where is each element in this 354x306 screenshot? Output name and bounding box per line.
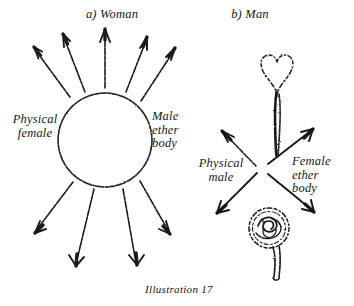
figure-caption: Illustration 17	[127, 284, 231, 296]
label-female-ether-body: Female ether body	[292, 155, 350, 196]
panel-title-woman: a) Woman	[72, 8, 152, 22]
figure-background	[0, 0, 354, 306]
label-physical-female: Physical female	[4, 113, 66, 140]
label-male-ether-body: Male ether body	[152, 110, 202, 151]
illustration-figure	[0, 0, 354, 306]
panel-title-man: b) Man	[215, 8, 285, 22]
label-physical-male: Physical male	[190, 157, 252, 184]
